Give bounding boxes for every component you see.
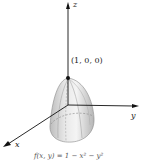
- x-axis-label: x: [15, 141, 20, 149]
- z-axis-label: z: [73, 1, 77, 9]
- function-caption: f(x, y) = 1 − x² − y²: [34, 152, 103, 160]
- paraboloid-surface: [50, 78, 94, 142]
- vertex-point: [66, 76, 70, 80]
- vertex-point-label: (1, 0, 0): [71, 57, 103, 65]
- y-axis-label: y: [131, 112, 136, 120]
- paraboloid-diagram: [0, 0, 147, 160]
